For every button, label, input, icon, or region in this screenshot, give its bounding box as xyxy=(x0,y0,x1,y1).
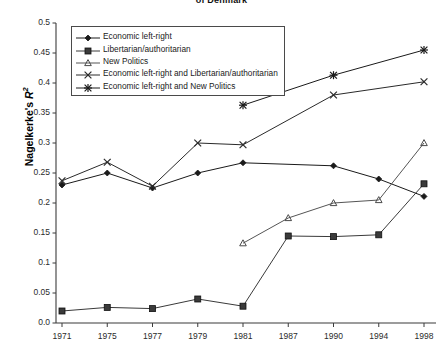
legend-item: Libertarian/authoritarian xyxy=(75,42,278,54)
legend-marker-asterisk-icon xyxy=(75,80,101,92)
legend-item-label: Economic left-right and Libertarian/auth… xyxy=(101,68,278,78)
legend-item-label: Economic left-right xyxy=(101,31,172,41)
y-tick-label: 0.25 xyxy=(22,167,50,177)
y-tick-label: 0.5 xyxy=(22,17,50,27)
legend-item-label: Economic left-right and New Politics xyxy=(101,81,235,91)
y-tick-label: 0.05 xyxy=(22,287,50,297)
x-tick-label: 1990 xyxy=(314,331,354,341)
series-2 xyxy=(240,140,428,246)
x-tick-label: 1977 xyxy=(133,331,173,341)
legend-item: Economic left-right xyxy=(75,30,278,42)
x-tick-label: 1979 xyxy=(178,331,218,341)
legend-marker-diamond-icon xyxy=(75,30,101,42)
legend-marker-triangle-icon xyxy=(75,55,101,67)
y-tick-label: 0.4 xyxy=(22,77,50,87)
x-tick-label: 1981 xyxy=(223,331,263,341)
x-tick-label: 1971 xyxy=(42,331,82,341)
y-tick-label: 0.0 xyxy=(22,317,50,327)
y-tick-label: 0.45 xyxy=(22,47,50,57)
x-tick-label: 1998 xyxy=(404,331,443,341)
legend-item-label: Libertarian/authoritarian xyxy=(101,44,191,54)
x-tick-label: 1975 xyxy=(87,331,127,341)
legend-item: Economic left-right and Libertarian/auth… xyxy=(75,67,278,79)
chart-container: of Denmark Nagelkerke's R2 0.00.050.10.1… xyxy=(0,0,443,350)
x-tick-label: 1994 xyxy=(359,331,399,341)
chart-legend: Economic left-rightLibertarian/authorita… xyxy=(71,26,285,96)
legend-item: Economic left-right and New Politics xyxy=(75,80,278,92)
x-tick-label: 1987 xyxy=(268,331,308,341)
legend-item: New Politics xyxy=(75,55,278,67)
y-tick-label: 0.15 xyxy=(22,227,50,237)
y-tick-label: 0.3 xyxy=(22,137,50,147)
y-tick-label: 0.35 xyxy=(22,107,50,117)
legend-marker-square-icon xyxy=(75,43,101,55)
legend-item-label: New Politics xyxy=(101,56,148,66)
y-tick-label: 0.2 xyxy=(22,197,50,207)
legend-marker-cross-icon xyxy=(75,67,101,79)
y-tick-label: 0.1 xyxy=(22,257,50,267)
